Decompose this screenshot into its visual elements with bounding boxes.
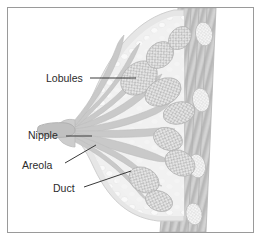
diagram-frame: Lobules Nipple Areola Duct bbox=[7, 7, 254, 233]
label-areola: Areola bbox=[22, 159, 53, 171]
figure-root: Lobules Nipple Areola Duct bbox=[0, 0, 263, 242]
label-nipple: Nipple bbox=[28, 129, 58, 141]
label-lobules: Lobules bbox=[46, 72, 83, 84]
label-duct: Duct bbox=[53, 182, 75, 194]
breast-anatomy-illustration: Lobules Nipple Areola Duct bbox=[8, 8, 253, 232]
